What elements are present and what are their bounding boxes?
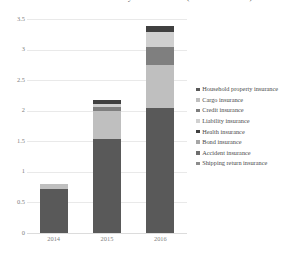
bar-segment[interactable] [146,108,174,233]
x-axis-tick-label: 2014 [47,236,60,242]
plot-area [27,19,187,233]
square-marker-icon [196,88,200,92]
bar-segment[interactable] [146,47,174,65]
chart-title: Gross Premium Income by Insurance Line (… [0,0,294,2]
y-axis-tick-label: 2.5 [1,77,25,83]
gridline [27,19,187,20]
legend-item-label: Liability insurance [202,118,249,124]
x-axis-tick-label: 2016 [154,236,167,242]
x-axis-tick-label: 2015 [101,236,114,242]
legend-item-label: Cargo insurance [202,97,243,103]
bar-segment[interactable] [93,111,121,140]
square-marker-icon [196,151,200,155]
legend-item-label: Health insurance [202,129,245,135]
bar-segment[interactable] [146,26,174,33]
bar-2014[interactable] [40,184,68,233]
y-axis-tick-label: 2 [1,107,25,113]
y-axis-tick-label: 1.5 [1,138,25,144]
legend-item[interactable]: Shipping return insurance [196,158,294,169]
bar-segment[interactable] [146,32,174,46]
y-axis-tick-label: 0.5 [1,199,25,205]
bar-segment[interactable] [93,139,121,233]
legend-item[interactable]: Credit insurance [196,105,294,116]
y-axis-tick-label: 1 [1,168,25,174]
legend-item-label: Bond insurance [202,139,241,145]
legend-item-label: Credit insurance [202,107,243,113]
square-marker-icon [196,130,200,134]
square-marker-icon [196,98,200,102]
bar-2015[interactable] [93,100,121,233]
legend-item-label: Accident insurance [202,150,250,156]
square-marker-icon [196,140,200,144]
y-axis: 00.511.522.533.5 [0,19,25,233]
chart-legend: Household property insuranceCargo insura… [196,84,294,169]
legend-item-label: Shipping return insurance [202,160,267,166]
legend-item[interactable]: Accident insurance [196,148,294,159]
x-axis: 201420152016 [27,236,187,248]
legend-item[interactable]: Health insurance [196,126,294,137]
stacked-bar-chart: Gross Premium Income by Insurance Line (… [0,0,294,255]
square-marker-icon [196,162,200,166]
square-marker-icon [196,119,200,123]
bar-segment[interactable] [40,189,68,233]
bar-2016[interactable] [146,26,174,233]
legend-item[interactable]: Liability insurance [196,116,294,127]
gridline [27,233,187,234]
legend-item-label: Household property insurance [202,86,278,92]
square-marker-icon [196,109,200,113]
legend-item[interactable]: Cargo insurance [196,95,294,106]
bar-segment[interactable] [146,65,174,108]
y-axis-tick-label: 0 [1,230,25,236]
legend-item[interactable]: Household property insurance [196,84,294,95]
y-axis-tick-label: 3 [1,46,25,52]
legend-item[interactable]: Bond insurance [196,137,294,148]
y-axis-tick-label: 3.5 [1,16,25,22]
